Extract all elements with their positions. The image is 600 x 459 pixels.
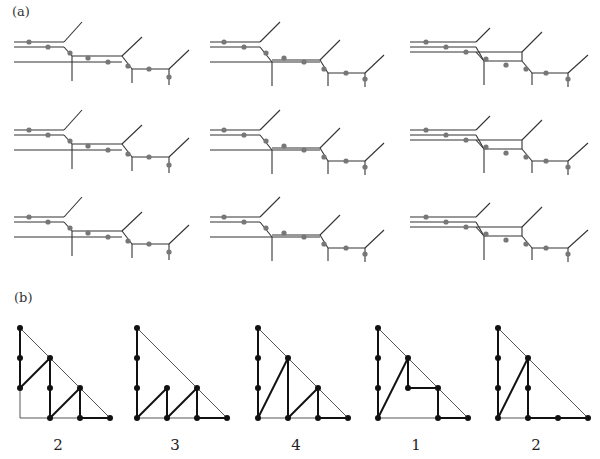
tropical-curve-8 xyxy=(210,197,384,262)
tropical-curve-9 xyxy=(410,203,588,262)
tropical-curve-1 xyxy=(14,22,189,85)
tropical-curve-5 xyxy=(210,110,384,175)
subdivision-number: 4 xyxy=(291,436,301,454)
triangle-subdivision-1 xyxy=(17,325,113,421)
subdivision-number: 3 xyxy=(170,436,180,454)
subdivision-number: 2 xyxy=(53,436,63,454)
tropical-curve-7 xyxy=(14,197,189,260)
subdivision-number: 1 xyxy=(411,436,421,454)
triangle-subdivision-5 xyxy=(495,325,591,421)
triangle-subdivision-2 xyxy=(134,325,230,421)
tropical-curve-4 xyxy=(14,110,189,173)
subdivision-number: 2 xyxy=(531,436,541,454)
tropical-curve-3 xyxy=(410,28,588,87)
triangle-subdivision-3 xyxy=(255,325,351,421)
figure-canvas xyxy=(0,0,600,459)
triangle-subdivision-4 xyxy=(375,325,471,421)
tropical-curve-6 xyxy=(410,116,588,175)
tropical-curve-2 xyxy=(210,22,384,87)
